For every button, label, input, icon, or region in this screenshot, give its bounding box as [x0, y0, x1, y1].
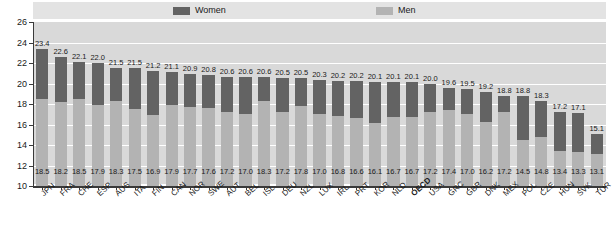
bar-GRC[interactable]: 19.617.4 — [443, 88, 455, 186]
bar-segment-women — [591, 134, 603, 155]
bar-segment-women — [443, 88, 455, 111]
legend-swatch-men-icon — [376, 7, 393, 15]
bar-value-women: 18.3 — [534, 92, 549, 101]
bar-segment-men — [480, 122, 492, 186]
bar-AUT[interactable]: 20.617.2 — [221, 77, 233, 186]
bar-segment-women — [92, 63, 104, 105]
y-axis-tick-label: 24 — [0, 39, 27, 48]
bar-CAN[interactable]: 21.117.9 — [166, 72, 178, 186]
bar-SWE[interactable]: 20.817.6 — [202, 75, 214, 186]
bar-segment-women — [461, 89, 473, 115]
bar-segment-women — [554, 112, 566, 151]
bar-TUR[interactable]: 15.113.1 — [591, 134, 603, 186]
bar-value-men: 17.2 — [220, 168, 235, 176]
bar-KOR[interactable]: 20.116.1 — [369, 82, 381, 186]
bar-segment-women — [535, 101, 547, 137]
bar-value-women: 22.6 — [53, 48, 68, 57]
bar-AUS[interactable]: 21.518.3 — [110, 68, 122, 186]
bar-NOR[interactable]: 20.917.7 — [184, 74, 196, 186]
bar-value-women: 21.1 — [164, 63, 179, 72]
bar-CZE[interactable]: 18.314.8 — [535, 101, 547, 186]
bar-value-women: 17.1 — [571, 104, 586, 113]
bar-USA[interactable]: 20.017.2 — [424, 84, 436, 187]
bar-value-men: 17.0 — [460, 168, 475, 176]
bar-value-women: 20.2 — [331, 72, 346, 81]
bar-value-men: 13.4 — [552, 168, 567, 176]
bar-value-men: 16.7 — [405, 168, 420, 176]
bar-value-women: 20.5 — [294, 69, 309, 78]
bar-value-women: 20.6 — [220, 68, 235, 77]
bar-value-women: 21.5 — [109, 59, 124, 68]
bar-value-men: 16.6 — [349, 168, 364, 176]
bar-DNK[interactable]: 19.216.2 — [480, 92, 492, 186]
bar-segment-women — [129, 68, 141, 109]
bar-ITA[interactable]: 21.517.5 — [129, 68, 141, 186]
bar-BEL[interactable]: 20.617.0 — [239, 77, 251, 186]
bar-GBR[interactable]: 19.517.0 — [461, 89, 473, 186]
bar-value-women: 20.1 — [368, 73, 383, 82]
bar-value-men: 16.9 — [146, 168, 161, 176]
bar-MEX[interactable]: 18.817.2 — [498, 96, 510, 186]
chart-legend: Women Men — [33, 2, 606, 19]
bar-value-women: 19.5 — [460, 80, 475, 89]
bar-segment-men — [535, 137, 547, 186]
legend-label-women: Women — [195, 6, 226, 15]
bar-value-women: 20.3 — [312, 71, 327, 80]
bar-value-men: 17.7 — [183, 168, 198, 176]
bar-value-men: 18.3 — [257, 168, 272, 176]
bar-FIN[interactable]: 21.216.9 — [147, 71, 159, 186]
bar-ESP[interactable]: 22.017.9 — [92, 63, 104, 186]
bar-value-women: 22.1 — [72, 53, 87, 62]
bar-value-men: 16.1 — [368, 168, 383, 176]
bar-value-men: 17.2 — [497, 168, 512, 176]
bar-IRL[interactable]: 20.216.8 — [332, 81, 344, 186]
x-axis-ticks: JPNFRACHEESPAUSITAFINCANNORSWEAUTBELISLD… — [33, 186, 606, 229]
bar-value-women: 23.4 — [35, 40, 50, 49]
bar-NLD[interactable]: 20.116.7 — [387, 82, 399, 186]
legend-swatch-women-icon — [173, 7, 190, 15]
bar-value-women: 20.5 — [275, 69, 290, 78]
bar-FRA[interactable]: 22.618.2 — [55, 57, 67, 186]
y-axis-tick-label: 10 — [0, 182, 27, 191]
bar-CHE[interactable]: 22.118.5 — [73, 62, 85, 186]
y-axis-tick-label: 14 — [0, 141, 27, 150]
bar-segment-women — [276, 78, 288, 112]
bar-value-men: 17.0 — [238, 168, 253, 176]
bar-value-women: 21.2 — [146, 62, 161, 71]
y-axis-tick-label: 12 — [0, 162, 27, 171]
bar-segment-men — [369, 123, 381, 186]
bar-ISL[interactable]: 20.618.3 — [258, 77, 270, 186]
bar-value-men: 17.4 — [442, 168, 457, 176]
bar-segment-women — [350, 81, 362, 118]
bar-POL[interactable]: 18.814.5 — [517, 96, 529, 186]
bar-NZL[interactable]: 20.517.8 — [295, 78, 307, 186]
bar-segment-women — [387, 82, 399, 117]
bar-segment-women — [110, 68, 122, 101]
bar-segment-men — [517, 140, 529, 186]
bar-value-women: 19.2 — [479, 83, 494, 92]
legend-item-men: Men — [376, 2, 416, 19]
bar-DEU[interactable]: 20.517.2 — [276, 78, 288, 186]
bar-LUX[interactable]: 20.317.0 — [313, 80, 325, 186]
bar-value-men: 17.2 — [423, 168, 438, 176]
bar-PRT[interactable]: 20.216.6 — [350, 81, 362, 186]
bar-OECD[interactable]: 20.116.7 — [406, 82, 418, 186]
bar-JPN[interactable]: 23.418.5 — [36, 49, 48, 186]
bar-SVK[interactable]: 17.113.3 — [572, 113, 584, 186]
bar-value-men: 13.3 — [571, 168, 586, 176]
bar-value-men: 16.8 — [331, 168, 346, 176]
bar-value-men: 18.5 — [35, 168, 50, 176]
bar-value-women: 20.1 — [405, 73, 420, 82]
bar-value-men: 14.5 — [516, 168, 531, 176]
bar-segment-women — [36, 49, 48, 99]
bar-HUN[interactable]: 17.213.4 — [554, 112, 566, 186]
bar-segment-women — [406, 82, 418, 117]
bar-segment-women — [517, 96, 529, 140]
bar-segment-women — [202, 75, 214, 108]
bar-value-women: 21.5 — [127, 59, 142, 68]
bar-value-women: 15.1 — [589, 125, 604, 134]
bar-value-women: 20.6 — [257, 68, 272, 77]
bar-segment-women — [258, 77, 270, 101]
bar-value-men: 18.5 — [72, 168, 87, 176]
bar-value-men: 16.2 — [479, 168, 494, 176]
